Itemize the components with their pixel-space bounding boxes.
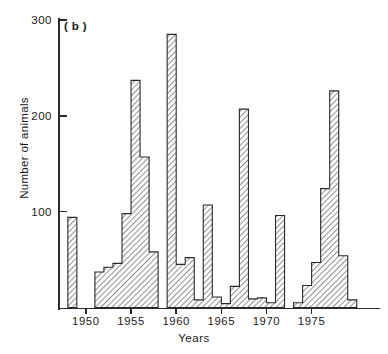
bar-group (294, 91, 357, 308)
chart-figure: ( b ) Number of animals Years 100200300 … (0, 0, 388, 354)
bar-group (167, 34, 284, 307)
bar-series (0, 0, 388, 354)
histogram-svg (0, 0, 388, 354)
bar-group (68, 217, 77, 307)
bar-group (95, 80, 158, 307)
